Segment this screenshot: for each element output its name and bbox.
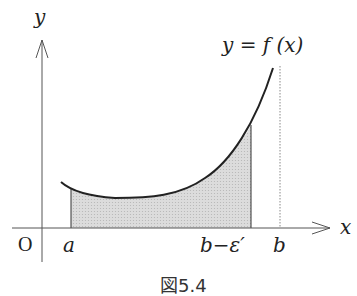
improper-integral-diagram: y x O a b−ε′ b y = f (x) 図5.4 <box>0 0 357 296</box>
curve-label: y = f (x) <box>221 33 303 57</box>
x-axis-label: x <box>340 215 351 239</box>
tick-label-b: b <box>273 233 286 257</box>
figure-caption: 図5.4 <box>160 275 207 296</box>
shaded-area <box>71 125 251 228</box>
origin-label: O <box>18 233 32 255</box>
tick-label-b-minus-epsilon: b−ε′ <box>200 233 245 257</box>
y-axis-label: y <box>33 5 46 29</box>
tick-label-a: a <box>63 233 75 257</box>
